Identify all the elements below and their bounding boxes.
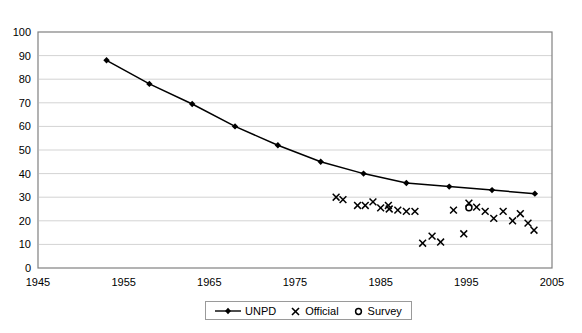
data-point-diamond (232, 123, 238, 129)
y-axis-tick-label: 100 (13, 26, 31, 38)
data-point-diamond (146, 81, 152, 87)
y-axis-tick-label: 90 (19, 50, 31, 62)
data-point-x (500, 208, 507, 215)
x-axis-tick-label: 1955 (111, 276, 135, 288)
chart-plot-area: 0102030405060708090100194519551965197519… (0, 0, 582, 333)
legend-label-official: Official (305, 305, 338, 317)
series-survey (466, 205, 472, 211)
data-point-diamond (318, 159, 324, 165)
data-point-x (412, 208, 419, 215)
series-official (333, 194, 538, 247)
data-point-x (482, 208, 489, 215)
data-point-x (377, 204, 384, 211)
data-point-x (460, 230, 467, 237)
data-point-x (517, 210, 524, 217)
data-point-x (531, 227, 538, 234)
data-point-diamond (489, 187, 495, 193)
legend-entry-survey: Survey (353, 305, 402, 317)
data-point-x (370, 199, 377, 206)
data-point-o (466, 205, 472, 211)
y-axis-tick-label: 20 (19, 215, 31, 227)
data-point-x (450, 207, 457, 214)
x-axis-tick-label: 2005 (540, 276, 564, 288)
y-axis-tick-label: 80 (19, 73, 31, 85)
legend-label-survey: Survey (368, 305, 402, 317)
x-marker-icon (290, 306, 301, 316)
data-point-x (394, 207, 401, 214)
circle-marker-icon (353, 306, 364, 316)
data-point-x (354, 202, 361, 209)
y-axis-tick-label: 70 (19, 97, 31, 109)
data-point-x (362, 202, 369, 209)
data-point-diamond (189, 101, 195, 107)
y-axis-tick-label: 50 (19, 144, 31, 156)
data-point-diamond (360, 170, 366, 176)
series-unpd (103, 57, 538, 197)
y-axis-tick-label: 60 (19, 120, 31, 132)
data-point-x (473, 204, 480, 211)
data-point-diamond (532, 190, 538, 196)
line-diamond-icon (215, 306, 241, 316)
x-axis-tick-label: 1975 (283, 276, 307, 288)
x-axis-tick-label: 1985 (368, 276, 392, 288)
x-axis-tick-label: 1945 (26, 276, 50, 288)
data-point-x (403, 208, 410, 215)
legend-entry-official: Official (290, 305, 338, 317)
data-point-diamond (103, 57, 109, 63)
chart-legend: UNPD Official Survey (205, 301, 412, 320)
chart-container: 0102030405060708090100194519551965197519… (0, 0, 582, 333)
y-axis-tick-label: 40 (19, 168, 31, 180)
data-point-x (419, 240, 426, 247)
x-axis-tick-label: 1995 (454, 276, 478, 288)
legend-label-unpd: UNPD (245, 305, 276, 317)
legend-entry-unpd: UNPD (215, 305, 276, 317)
y-axis-tick-label: 30 (19, 191, 31, 203)
y-axis-tick-label: 10 (19, 238, 31, 250)
y-axis-tick-label: 0 (25, 262, 31, 274)
data-point-diamond (403, 180, 409, 186)
data-point-diamond (275, 142, 281, 148)
data-point-x (429, 233, 436, 240)
data-point-diamond (446, 183, 452, 189)
x-axis-tick-label: 1965 (197, 276, 221, 288)
